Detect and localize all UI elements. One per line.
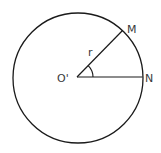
circle (13, 13, 143, 143)
radius-segment-om (77, 31, 123, 78)
center-label: O' (57, 72, 69, 85)
point-n-label: N (145, 72, 153, 85)
radius-label: r (88, 46, 93, 59)
point-m-label: M (127, 23, 137, 36)
angle-arc (88, 66, 93, 77)
circle-diagram: O' M N r (0, 0, 161, 153)
